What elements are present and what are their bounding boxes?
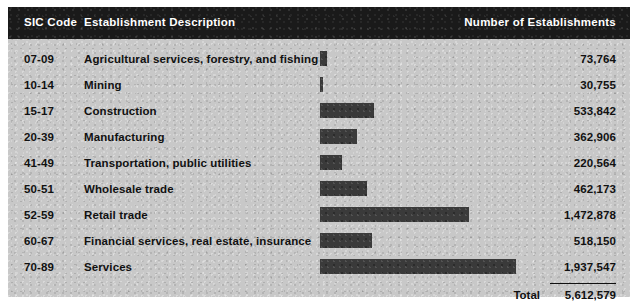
establishments-table-panel: SIC Code Establishment Description Numbe…: [8, 7, 630, 297]
cell-sic-code: 20-39: [24, 131, 54, 143]
cell-sic-code: 41-49: [24, 157, 54, 169]
column-header-number: Number of Establishments: [464, 16, 616, 28]
cell-establishment-count: 462,173: [574, 183, 616, 195]
cell-establishment-count: 533,842: [574, 105, 616, 117]
bar-20-39: [320, 129, 357, 144]
cell-sic-code: 50-51: [24, 183, 54, 195]
cell-description: Mining: [84, 79, 122, 91]
bar-60-67: [320, 233, 372, 248]
bar-10-14: [320, 77, 323, 92]
cell-sic-code: 15-17: [24, 105, 54, 117]
table-row: 20-39Manufacturing362,906: [8, 125, 630, 151]
total-row: Total 5,612,579: [8, 281, 630, 302]
cell-description: Construction: [84, 105, 157, 117]
cell-sic-code: 60-67: [24, 235, 54, 247]
cell-sic-code: 52-59: [24, 209, 54, 221]
cell-description: Services: [84, 261, 132, 273]
table-row: 15-17Construction533,842: [8, 99, 630, 125]
bar-15-17: [320, 103, 374, 118]
bar-41-49: [320, 155, 342, 170]
cell-description: Retail trade: [84, 209, 148, 221]
cell-establishment-count: 73,764: [580, 53, 616, 65]
table-row: 60-67Financial services, real estate, in…: [8, 229, 630, 255]
column-header-sic-code: SIC Code: [24, 16, 77, 28]
cell-description: Transportation, public utilities: [84, 157, 251, 169]
cell-sic-code: 10-14: [24, 79, 54, 91]
total-value: 5,612,579: [565, 289, 616, 301]
bar-50-51: [320, 181, 367, 196]
table-row: 07-09Agricultural services, forestry, an…: [8, 47, 630, 73]
cell-establishment-count: 1,937,547: [564, 261, 616, 273]
bar-70-89: [320, 259, 516, 274]
column-header-description: Establishment Description: [84, 16, 235, 28]
cell-description: Financial services, real estate, insuran…: [84, 235, 311, 247]
table-row: 50-51Wholesale trade462,173: [8, 177, 630, 203]
bar-07-09: [320, 51, 327, 66]
cell-description: Manufacturing: [84, 131, 165, 143]
cell-description: Agricultural services, forestry, and fis…: [84, 53, 318, 65]
cell-establishment-count: 518,150: [574, 235, 616, 247]
total-divider: [550, 283, 616, 284]
table-row: 10-14Mining30,755: [8, 73, 630, 99]
cell-establishment-count: 1,472,878: [564, 209, 616, 221]
cell-establishment-count: 362,906: [574, 131, 616, 143]
total-label: Total: [513, 289, 540, 301]
table-header-bar: SIC Code Establishment Description Numbe…: [8, 7, 630, 39]
cell-establishment-count: 220,564: [574, 157, 616, 169]
cell-sic-code: 70-89: [24, 261, 54, 273]
table-row: 41-49Transportation, public utilities220…: [8, 151, 630, 177]
table-row: 70-89Services1,937,547: [8, 255, 630, 281]
bar-52-59: [320, 207, 469, 222]
cell-sic-code: 07-09: [24, 53, 54, 65]
cell-description: Wholesale trade: [84, 183, 174, 195]
table-row: 52-59Retail trade1,472,878: [8, 203, 630, 229]
cell-establishment-count: 30,755: [580, 79, 616, 91]
